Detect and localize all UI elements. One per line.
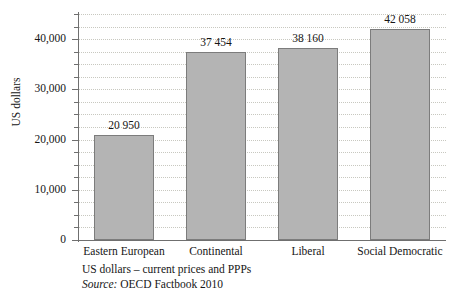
chart-caption: US dollars – current prices and PPPs Sou… [82, 262, 251, 291]
bar-value-label: 20 950 [64, 119, 184, 131]
x-axis-label: Eastern European [72, 244, 176, 258]
x-axis-label: Continental [164, 244, 268, 258]
caption-source-line: Source: OECD Factbook 2010 [82, 277, 251, 292]
x-axis-category-labels: Eastern EuropeanContinentalLiberalSocial… [78, 244, 446, 262]
bar-chart-figure: US dollars 010,00020,00030,00040,000 20 … [0, 0, 464, 296]
bar-value-label: 42 058 [340, 13, 460, 25]
source-value: OECD Factbook 2010 [117, 278, 223, 290]
caption-line-1: US dollars – current prices and PPPs [82, 262, 251, 277]
source-label: Source: [82, 278, 117, 290]
x-axis-label: Social Democratic [348, 244, 452, 258]
bar-value-label: 38 160 [248, 32, 368, 44]
x-axis-label: Liberal [256, 244, 360, 258]
